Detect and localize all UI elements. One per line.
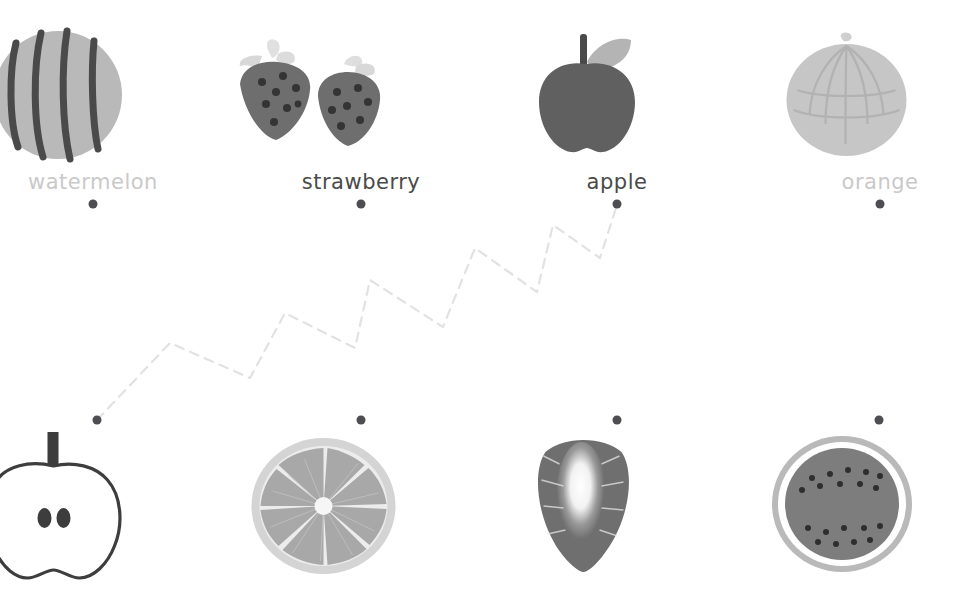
apple-cross-section-icon[interactable] [55,430,140,590]
orange-whole-icon[interactable] [847,28,914,162]
strawberry-pair-icon[interactable] [316,38,406,164]
watermelon-whole-icon[interactable] [58,25,128,165]
connector-dot-strawberry-cross-section[interactable] [613,416,622,425]
connector-dot-watermelon[interactable] [89,200,98,209]
label-watermelon: watermelon [28,170,158,194]
orange-slice-icon[interactable] [324,435,399,577]
label-orange: orange [842,170,919,194]
connector-dot-orange-slice[interactable] [357,416,366,425]
connector-dot-apple[interactable] [613,200,622,209]
strawberry-cross-section-icon[interactable] [585,430,650,580]
connector-dot-orange[interactable] [876,200,885,209]
watermelon-slice-icon[interactable] [842,432,916,580]
connector-dot-apple-cross-section[interactable] [93,416,102,425]
label-strawberry: strawberry [302,170,420,194]
connector-dot-strawberry[interactable] [357,200,366,209]
connection-apple [97,205,617,420]
apple-whole-icon[interactable] [587,28,647,162]
label-apple: apple [587,170,648,194]
connector-dot-watermelon-slice[interactable] [875,416,884,425]
exercise-canvas: watermelon strawberry apple orange [0,0,978,596]
